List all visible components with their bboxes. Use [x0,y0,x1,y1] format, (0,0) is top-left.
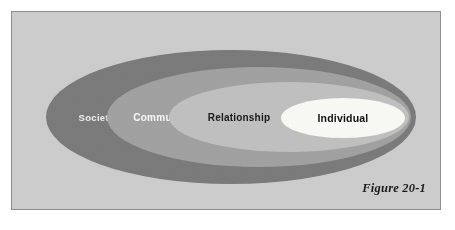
figure-root: Societal Community Relationship Individu… [0,0,455,230]
figure-panel: Societal Community Relationship Individu… [11,11,441,210]
individual-label: Individual [317,112,368,124]
figure-caption: Figure 20-1 [362,181,426,196]
relationship-label: Relationship [208,112,270,123]
ring-individual[interactable]: Individual [281,98,405,138]
